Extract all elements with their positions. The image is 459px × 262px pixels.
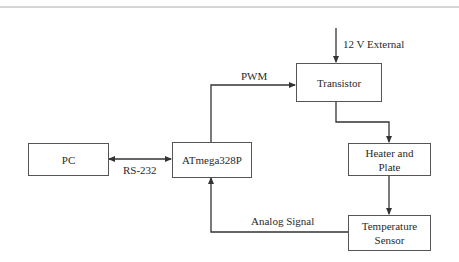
rs232-label: RS-232 bbox=[123, 164, 157, 176]
sensor-label-line1: Temperature bbox=[362, 219, 417, 233]
ext-power-label: 12 V External bbox=[343, 38, 404, 50]
atmega-label: ATmega328P bbox=[182, 153, 242, 167]
drive-arrow bbox=[336, 101, 389, 142]
pwm-label: PWM bbox=[241, 70, 267, 82]
heater-label-line2: Plate bbox=[379, 160, 401, 174]
pwm-arrow bbox=[211, 85, 295, 142]
transistor-block: Transistor bbox=[296, 63, 382, 102]
pc-label: PC bbox=[62, 153, 75, 167]
sensor-label-line2: Sensor bbox=[375, 233, 405, 247]
heater-label-line1: Heater and bbox=[366, 146, 414, 160]
transistor-label: Transistor bbox=[317, 76, 361, 90]
atmega-block: ATmega328P bbox=[172, 142, 252, 178]
analog-label: Analog Signal bbox=[251, 215, 314, 227]
pc-block: PC bbox=[28, 143, 109, 176]
heater-block: Heater and Plate bbox=[348, 143, 431, 176]
sensor-block: Temperature Sensor bbox=[348, 215, 431, 251]
